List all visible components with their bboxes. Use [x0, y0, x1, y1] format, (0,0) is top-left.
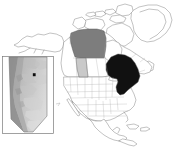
inset-leader-line [56, 103, 60, 106]
study-site-marker[interactable] [33, 73, 36, 76]
florida-detail [124, 112, 128, 122]
banks-island-polygon [73, 17, 86, 29]
alaska-polygon [14, 33, 64, 52]
ellesmere-island-polygon [116, 4, 133, 16]
arctic-islet-c [86, 12, 96, 17]
arctic-islet-b [105, 9, 116, 15]
alberta-inset [2, 56, 54, 134]
arctic-islet-a [95, 11, 106, 17]
map-layer-inset-leader [56, 103, 60, 106]
figure-canvas [0, 0, 175, 148]
devon-island-polygon [110, 15, 126, 23]
hispaniola-polygon [141, 127, 150, 131]
cuba-polygon [127, 124, 139, 129]
highlight-northwest-territories [70, 29, 106, 58]
central-america-polygon [119, 139, 137, 146]
greenland-polygon [131, 5, 172, 42]
